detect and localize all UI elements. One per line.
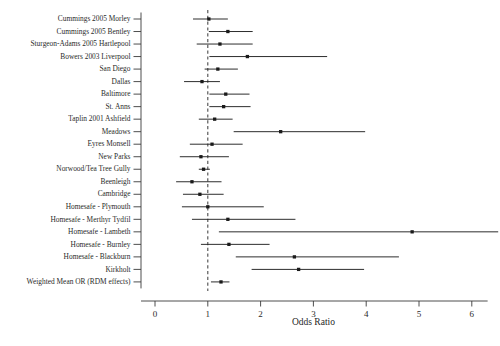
- point-estimate-marker: [224, 92, 227, 95]
- x-axis: 0123456: [141, 301, 488, 319]
- x-tick-label: 2: [258, 309, 263, 319]
- point-estimate-marker: [297, 268, 300, 271]
- data-series-group: [176, 17, 498, 283]
- point-estimate-marker: [218, 42, 221, 45]
- forest-row: [197, 42, 253, 45]
- point-estimate-marker: [222, 105, 225, 108]
- forest-row: [209, 92, 249, 95]
- category-label: Homesafe - Blackburn: [64, 252, 131, 261]
- point-estimate-marker: [206, 205, 209, 208]
- x-axis-title: Odds Ratio: [292, 317, 335, 327]
- forest-row: [234, 130, 365, 133]
- category-label: Kirkholt: [105, 265, 131, 274]
- forest-row: [199, 118, 233, 121]
- forest-plot: Cummings 2005 MorleyCummings 2005 Bentle…: [0, 0, 500, 346]
- point-estimate-marker: [213, 118, 216, 121]
- category-label: Cummings 2005 Morley: [58, 14, 131, 23]
- forest-row: [252, 268, 364, 271]
- category-label: Baltimore: [101, 89, 131, 98]
- category-label: Eyres Monsell: [88, 139, 131, 148]
- category-label: Homesafe - Merthyr Tydfil: [50, 215, 130, 224]
- point-estimate-marker: [226, 218, 229, 221]
- category-label: Norwood/Tea Tree Gully: [56, 164, 131, 173]
- forest-row: [205, 67, 238, 70]
- category-label: Bowers 2003 Liverpool: [60, 52, 130, 61]
- point-estimate-marker: [279, 130, 282, 133]
- category-label: Meadows: [102, 127, 131, 136]
- x-tick-label: 1: [206, 309, 211, 319]
- x-tick-label: 4: [364, 309, 369, 319]
- point-estimate-marker: [246, 55, 249, 58]
- category-label: New Parks: [98, 152, 130, 161]
- point-estimate-marker: [226, 30, 229, 33]
- category-label: St. Anns: [105, 102, 130, 111]
- category-label: San Diego: [100, 64, 131, 73]
- point-estimate-marker: [410, 230, 413, 233]
- category-label: Beenleigh: [101, 177, 131, 186]
- forest-row: [176, 180, 221, 183]
- point-estimate-marker: [210, 143, 213, 146]
- category-label: Taplin 2001 Ashfield: [68, 114, 131, 123]
- point-estimate-marker: [198, 193, 201, 196]
- point-estimate-marker: [227, 243, 230, 246]
- cut-off-caption: [0, 337, 500, 346]
- category-label: Sturgeon-Adams 2005 Hartlepool: [30, 39, 130, 48]
- point-estimate-marker: [219, 280, 222, 283]
- category-label: Homesafe - Plymouth: [66, 202, 131, 211]
- point-estimate-marker: [202, 168, 205, 171]
- category-label: Dallas: [112, 77, 131, 86]
- point-estimate-marker: [207, 17, 210, 20]
- x-tick-label: 0: [153, 309, 158, 319]
- category-label: Cambridge: [98, 189, 132, 198]
- x-tick-label: 6: [470, 309, 475, 319]
- category-label: Homesafe - Lambeth: [68, 227, 131, 236]
- forest-row: [180, 155, 229, 158]
- point-estimate-marker: [200, 80, 203, 83]
- y-axis: Cummings 2005 MorleyCummings 2005 Bentle…: [27, 13, 141, 289]
- forest-row: [193, 17, 228, 20]
- forest-row: [190, 143, 243, 146]
- category-label: Homesafe - Burnley: [71, 240, 131, 249]
- forest-row: [182, 205, 264, 208]
- forest-row: [209, 105, 250, 108]
- forest-row: [209, 30, 253, 33]
- x-tick-label: 5: [417, 309, 422, 319]
- forest-row: [236, 255, 399, 258]
- forest-row: [219, 230, 498, 233]
- forest-row: [183, 193, 224, 196]
- category-label: Weighted Mean OR (RDM effects): [27, 277, 131, 286]
- point-estimate-marker: [199, 155, 202, 158]
- point-estimate-marker: [190, 180, 193, 183]
- forest-row: [201, 243, 270, 246]
- category-label: Cummings 2005 Bentley: [57, 27, 131, 36]
- forest-row: [209, 55, 327, 58]
- forest-row: [184, 80, 220, 83]
- point-estimate-marker: [293, 255, 296, 258]
- point-estimate-marker: [216, 67, 219, 70]
- forest-row: [211, 280, 229, 283]
